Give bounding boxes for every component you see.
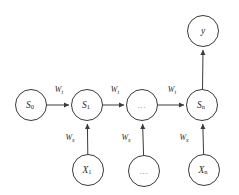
rnn-unrolled-diagram: Wt Wt Wt Wx Wx Wx S0 (0, 0, 239, 195)
node-s0[interactable]: S0 (16, 90, 47, 121)
edge-x1-to-s1: Wx (65, 124, 87, 155)
edge-label-wx-2: Wx (121, 133, 131, 143)
edge-s0-to-s1: Wt (47, 85, 70, 105)
node-xn[interactable]: Xn (189, 155, 220, 186)
node-s1[interactable]: S1 (72, 90, 103, 121)
node-x-ellipsis-label: ... (140, 166, 149, 176)
node-x-ellipsis[interactable]: ... (129, 156, 160, 187)
rnn-graph-canvas: Wt Wt Wt Wx Wx Wx S0 (0, 0, 239, 195)
edge-label-wt-3: Wt (168, 85, 177, 95)
edge-xmid-to-smid: Wx (121, 124, 143, 156)
edge-sn-to-y (203, 50, 204, 90)
edge-label-wt-2: Wt (111, 85, 120, 95)
edge-label-wx-3: Wx (179, 133, 189, 143)
edge-label-wt-1: Wt (55, 85, 64, 95)
node-s-ellipsis[interactable]: ... (127, 90, 158, 121)
node-x1[interactable]: X1 (73, 155, 104, 186)
edge-smid-to-sn: Wt (158, 85, 185, 105)
node-y[interactable]: y (188, 16, 219, 47)
edge-label-wx-1: Wx (65, 133, 75, 143)
edge-s1-to-smid: Wt (103, 85, 125, 105)
node-sn[interactable]: Sn (187, 90, 218, 121)
node-s-ellipsis-label: ... (138, 100, 147, 110)
node-y-label: y (200, 26, 206, 36)
edge-xn-to-sn: Wx (179, 124, 203, 155)
